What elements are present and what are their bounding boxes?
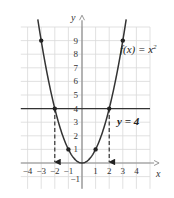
chart: −4−3−2−11234987654321−1 y x f(x) = x2 y … <box>0 0 174 198</box>
svg-text:1: 1 <box>93 166 98 176</box>
svg-text:6: 6 <box>74 76 79 86</box>
x-axis-label: x <box>155 168 161 179</box>
svg-text:8: 8 <box>74 49 79 59</box>
svg-text:4: 4 <box>134 166 139 176</box>
svg-text:7: 7 <box>74 63 79 73</box>
function-label: f(x) = x2 <box>120 43 157 56</box>
svg-text:−4: −4 <box>23 166 33 176</box>
svg-text:3: 3 <box>121 166 126 176</box>
svg-text:−3: −3 <box>36 166 46 176</box>
svg-text:3: 3 <box>74 117 79 127</box>
svg-text:5: 5 <box>74 90 79 100</box>
svg-text:2: 2 <box>107 166 112 176</box>
y-axis-label: y <box>70 12 76 23</box>
svg-text:−2: −2 <box>50 166 60 176</box>
svg-text:4: 4 <box>74 104 79 114</box>
svg-text:9: 9 <box>74 36 79 46</box>
tick-labels: −4−3−2−11234987654321−1 <box>23 36 139 184</box>
line-label: y = 4 <box>115 115 140 127</box>
svg-text:−1: −1 <box>70 174 80 184</box>
svg-text:2: 2 <box>74 131 79 141</box>
svg-text:1: 1 <box>74 144 79 154</box>
